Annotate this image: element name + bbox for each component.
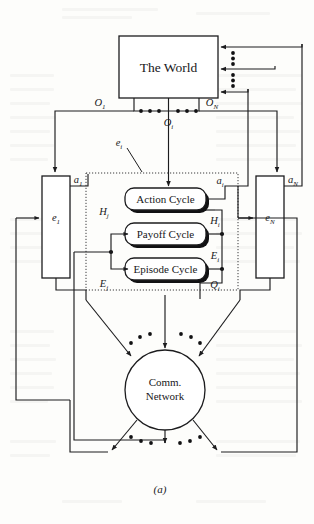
comm-network-node: Comm. Network xyxy=(125,350,205,430)
payoff-cycle-label: Payoff Cycle xyxy=(137,228,195,240)
observation-bus xyxy=(55,98,277,186)
agent-i-inbound-wires: Hj Ej xyxy=(74,206,128,292)
agent-i-outbound-wires: ai Hi Ei Qi xyxy=(200,89,248,295)
observation-labels: O1 Oi ON xyxy=(94,97,218,131)
architecture-diagram: The World xyxy=(0,0,314,524)
action-cycle-node: Action Cycle xyxy=(125,188,209,213)
episode-input-label: Ej xyxy=(99,278,108,292)
comm-network-label-line1: Comm. xyxy=(149,376,182,388)
comm-network-label-line2: Network xyxy=(146,390,185,402)
agent-left-node: e1 a1 xyxy=(16,174,88,300)
world-label: The World xyxy=(140,60,198,75)
episode-output-label: Ei xyxy=(210,250,219,264)
world-node: The World xyxy=(119,36,218,98)
history-input-label: Hj xyxy=(98,206,109,220)
quality-output-label: Qi xyxy=(210,279,220,293)
episode-cycle-node: Episode Cycle xyxy=(125,258,209,283)
history-output-label: Hi xyxy=(209,215,220,229)
observation-first-label: O1 xyxy=(94,97,105,111)
observation-last-label: ON xyxy=(206,97,219,111)
action-output-label: ai xyxy=(216,175,223,189)
action-cycle-label: Action Cycle xyxy=(136,193,194,205)
episode-cycle-label: Episode Cycle xyxy=(134,263,198,275)
figure-caption: (a) xyxy=(154,483,167,496)
payoff-cycle-node: Payoff Cycle xyxy=(125,223,209,248)
agent-center-label: ei xyxy=(116,137,123,151)
comm-network-inbound-arrows xyxy=(86,295,240,356)
figure-page: The World xyxy=(0,0,314,524)
